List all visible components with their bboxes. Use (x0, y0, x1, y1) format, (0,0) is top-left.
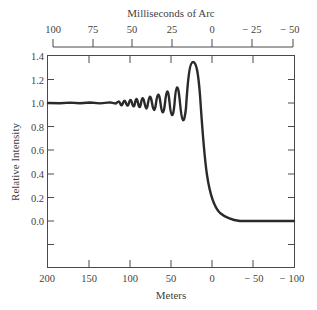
y-tick-label: 1.4 (31, 51, 45, 62)
x-tick-label: 150 (81, 273, 97, 284)
y-tick-label: 0.8 (31, 122, 44, 133)
y-axis-title: Relative Intensity (9, 123, 21, 201)
top-tick-label: − 25 (242, 24, 261, 35)
top-axis (53, 39, 293, 47)
y-tick-label: 0.6 (31, 145, 44, 156)
y-axis-tick-labels: 1.4 1.2 1.0 0.8 0.6 0.4 0.2 0.0 (31, 51, 45, 227)
frame-top-ticks (89, 56, 253, 63)
plot-frame (48, 56, 295, 268)
x-tick-label: 100 (122, 273, 138, 284)
x-tick-label: − 50 (244, 273, 263, 284)
x-tick-label: 200 (39, 273, 55, 284)
x-axis-title: Meters (156, 289, 187, 301)
x-axis-tick-labels: 200 150 100 50 0 − 50 − 100 (39, 273, 304, 284)
y-tick-label: 0.0 (31, 216, 44, 227)
y-axis-ticks-right (288, 80, 294, 245)
intensity-curve (48, 62, 294, 221)
x-tick-label: 50 (166, 273, 177, 284)
y-tick-label: 1.0 (31, 98, 44, 109)
top-tick-label: 25 (167, 24, 178, 35)
top-axis-tick-labels: 100 75 50 25 0 − 25 − 50 (45, 24, 299, 35)
chart-figure: Milliseconds of Arc 100 75 50 25 0 − 25 … (0, 0, 317, 310)
y-tick-label: 1.2 (31, 75, 44, 86)
top-tick-label: 100 (45, 24, 61, 35)
x-tick-label: 0 (209, 273, 214, 284)
top-tick-label: 0 (209, 24, 214, 35)
y-tick-label: 0.2 (31, 193, 44, 204)
top-tick-label: 50 (127, 24, 138, 35)
y-tick-label: 0.4 (31, 169, 45, 180)
top-axis-title: Milliseconds of Arc (127, 7, 214, 19)
top-tick-label: − 50 (280, 24, 299, 35)
frame-bottom-ticks (89, 260, 253, 267)
top-tick-label: 75 (88, 24, 99, 35)
x-tick-label: − 100 (280, 273, 304, 284)
